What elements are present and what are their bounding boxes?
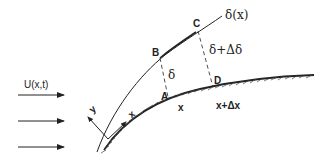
y-axis <box>88 117 108 139</box>
thickness-label: δ <box>168 68 175 82</box>
boundary-layer-diagram: U(x,t) <box>0 0 332 159</box>
flow-velocity-label: U(x,t) <box>24 79 48 90</box>
point-c-label: C <box>193 18 200 29</box>
freestream-arrows <box>18 95 64 147</box>
boundary-layer-segment-bc <box>160 32 196 58</box>
thickness-line-cd <box>198 31 213 87</box>
axis-y-label: y <box>87 103 99 115</box>
x-axis <box>108 122 126 139</box>
x-plus-dx-label: x+Δx <box>216 100 241 111</box>
x-position-label: x <box>178 102 184 113</box>
thickness-plus-label: δ+Δδ <box>209 43 242 57</box>
point-d-label: D <box>214 75 221 86</box>
boundary-layer-label: δ(x) <box>225 8 248 22</box>
axis-x-label: x <box>126 108 138 120</box>
point-a-label: A <box>161 91 168 102</box>
point-b-label: B <box>152 47 159 58</box>
